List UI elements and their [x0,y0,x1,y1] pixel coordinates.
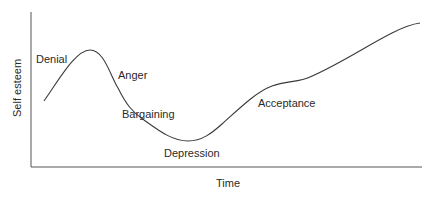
x-axis-label: Time [216,177,240,189]
change-curve-diagram [0,0,434,199]
self-esteem-curve [44,23,420,141]
label-denial: Denial [36,53,67,65]
label-bargaining: Bargaining [122,108,175,120]
label-depression: Depression [164,147,220,159]
label-anger: Anger [118,69,147,81]
label-acceptance: Acceptance [258,97,315,109]
y-axis-label: Self esteem [11,59,23,117]
